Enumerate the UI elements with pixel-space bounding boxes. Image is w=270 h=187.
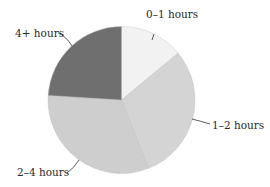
label-1-2-hours: 1–2 hours (192, 119, 264, 131)
pie-slices (48, 27, 195, 174)
label-4plus-hours: 4+ hours (15, 27, 72, 46)
slice-label: 1–2 hours (212, 119, 264, 131)
pie-chart: 0–1 hours 1–2 hours 2–4 hours 4+ hours (0, 0, 270, 187)
label-0-1-hours: 0–1 hours (146, 8, 198, 40)
leader-line (192, 119, 210, 124)
label-2-4-hours: 2–4 hours (17, 160, 79, 178)
slice-label: 4+ hours (15, 27, 64, 39)
slice-label: 2–4 hours (17, 166, 69, 178)
slice-label: 0–1 hours (146, 8, 198, 20)
